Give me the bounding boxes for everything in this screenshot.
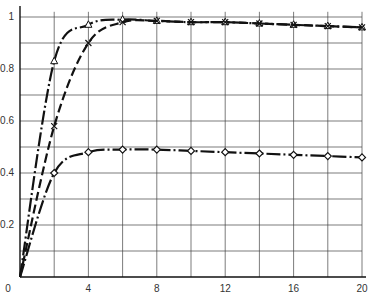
x-tick-label: 20 — [356, 283, 368, 294]
diamond-marker-icon — [85, 149, 92, 156]
y-tick-label: 0.8 — [0, 63, 14, 74]
series-cross — [20, 18, 365, 277]
y-tick-label: 0.4 — [0, 167, 14, 178]
series-triangle — [20, 16, 366, 277]
axes — [20, 6, 366, 277]
diamond-marker-icon — [324, 153, 331, 160]
series-diamond — [20, 146, 366, 277]
diamond-marker-icon — [290, 151, 297, 158]
x-tick-label: 0 — [5, 283, 11, 294]
y-tick-label: 1 — [8, 11, 14, 22]
y-axis-tick-labels: 0.20.40.60.81 — [0, 11, 14, 230]
grid-lines — [20, 12, 362, 277]
x-tick-label: 16 — [288, 283, 300, 294]
data-series — [20, 16, 366, 277]
diamond-marker-icon — [222, 149, 229, 156]
y-tick-label: 0.6 — [0, 115, 14, 126]
x-tick-label: 12 — [220, 283, 232, 294]
diamond-marker-icon — [188, 147, 195, 154]
diamond-marker-icon — [359, 154, 366, 161]
diamond-marker-icon — [256, 150, 263, 157]
y-tick-label: 0.2 — [0, 219, 14, 230]
x-axis-tick-labels: 048121620 — [5, 283, 368, 294]
line-chart: 048121620 0.20.40.60.81 — [0, 0, 379, 296]
triangle-marker-icon — [51, 57, 58, 64]
x-tick-label: 4 — [86, 283, 92, 294]
x-tick-label: 8 — [154, 283, 160, 294]
